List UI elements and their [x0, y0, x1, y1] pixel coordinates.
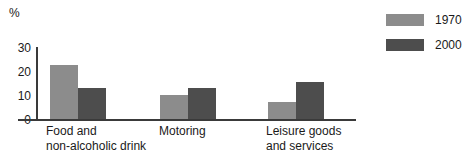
bar-chart: % 30 20 10 0 Food andnon-alcoholic drink… — [0, 0, 476, 160]
chart-legend: 1970 2000 — [386, 13, 462, 63]
legend-item-1970: 1970 — [386, 13, 462, 27]
category-label-food: Food andnon-alcoholic drink — [46, 124, 146, 154]
category-label-motoring: Motoring — [159, 124, 206, 139]
legend-swatch-2000-icon — [386, 39, 424, 51]
bar-food-1970 — [50, 65, 78, 119]
legend-label-1970: 1970 — [435, 14, 462, 26]
bar-motoring-2000 — [188, 88, 216, 119]
category-label-leisure-line2: and services — [266, 139, 333, 153]
category-label-leisure-line1: Leisure goods — [266, 124, 341, 138]
bar-motoring-1970 — [160, 95, 188, 119]
bar-leisure-2000 — [296, 82, 324, 119]
bar-leisure-1970 — [268, 102, 296, 119]
bar-food-2000 — [78, 88, 106, 119]
category-label-food-line2: non-alcoholic drink — [46, 139, 146, 153]
legend-item-2000: 2000 — [386, 38, 462, 52]
legend-label-2000: 2000 — [435, 39, 462, 51]
category-label-leisure: Leisure goodsand services — [266, 124, 341, 154]
category-label-food-line1: Food and — [46, 124, 97, 138]
category-label-motoring-line1: Motoring — [159, 124, 206, 138]
legend-swatch-1970-icon — [386, 14, 424, 26]
